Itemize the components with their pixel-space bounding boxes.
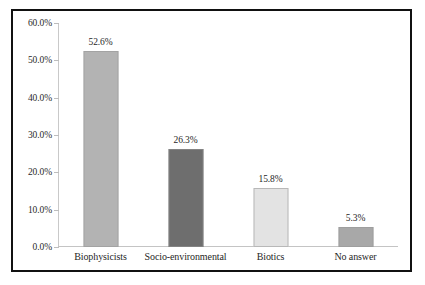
x-axis-category-label: Socio-environmental (143, 251, 228, 262)
y-tick-mark (54, 247, 59, 248)
y-tick-label: 30.0% (28, 130, 52, 140)
y-tick-label: 10.0% (28, 205, 52, 215)
x-axis-category-labels: BiophysicistsSocio-environmentalBioticsN… (58, 251, 398, 269)
y-tick-label: 20.0% (28, 167, 52, 177)
bar-value-label: 26.3% (173, 135, 197, 145)
plot-area: 0.0%10.0%20.0%30.0%40.0%50.0%60.0% 52.6%… (58, 23, 398, 247)
bar-slot: 52.6% (58, 23, 143, 247)
bar-slot: 26.3% (143, 23, 228, 247)
bar-value-label: 15.8% (258, 174, 282, 184)
y-tick-label: 40.0% (28, 93, 52, 103)
bar-slot: 5.3% (313, 23, 398, 247)
bar-slot: 15.8% (228, 23, 313, 247)
x-axis-category-label: Biophysicists (58, 251, 143, 262)
y-tick-label: 0.0% (33, 242, 52, 252)
bar[interactable] (253, 188, 288, 247)
bar[interactable] (168, 149, 203, 247)
y-tick-label: 60.0% (28, 18, 52, 28)
bar[interactable] (83, 51, 118, 247)
x-axis-category-label: Biotics (228, 251, 313, 262)
figure: 0.0%10.0%20.0%30.0%40.0%50.0%60.0% 52.6%… (0, 0, 425, 285)
chart-frame: 0.0%10.0%20.0%30.0%40.0%50.0%60.0% 52.6%… (11, 9, 412, 272)
y-tick-label: 50.0% (28, 55, 52, 65)
x-axis-category-label: No answer (313, 251, 398, 262)
bar[interactable] (338, 227, 373, 247)
bar-series: 52.6%26.3%15.8%5.3% (58, 23, 398, 247)
bar-value-label: 52.6% (88, 37, 112, 47)
bar-value-label: 5.3% (346, 213, 365, 223)
